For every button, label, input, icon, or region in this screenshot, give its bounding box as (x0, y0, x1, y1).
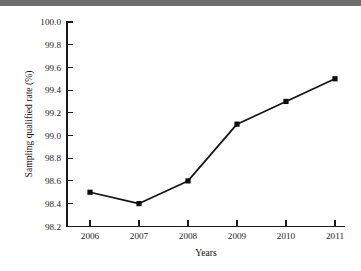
x-tick-label: 2006 (81, 231, 100, 241)
y-tick-label: 100.0 (40, 17, 61, 27)
data-line-series (90, 79, 335, 204)
y-axis-tick-labels: 100.0 99.8 99.6 99.4 99.2 99.0 98.8 98.6… (40, 17, 61, 231)
y-axis-ticks (67, 22, 73, 226)
data-point-marker (87, 190, 92, 195)
data-point-marker (136, 201, 141, 206)
y-tick-label: 98.2 (45, 222, 61, 232)
y-tick-label: 99.2 (45, 108, 61, 118)
x-tick-label: 2011 (326, 231, 344, 241)
x-axis-ticks (90, 220, 335, 226)
y-tick-label: 99.6 (45, 63, 61, 73)
x-axis-title: Years (195, 247, 217, 258)
data-point-marker (234, 122, 239, 127)
x-tick-label: 2009 (228, 231, 247, 241)
y-tick-label: 99.0 (45, 131, 61, 141)
y-axis-title: Sampling qualified rate (%) (23, 71, 35, 178)
x-tick-label: 2008 (179, 231, 198, 241)
y-tick-label: 99.8 (45, 40, 61, 50)
axis-spines (67, 21, 345, 226)
chart-svg: 100.0 99.8 99.6 99.4 99.2 99.0 98.8 98.6… (0, 6, 361, 271)
y-tick-label: 98.8 (45, 153, 61, 163)
x-tick-label: 2007 (130, 231, 149, 241)
y-tick-label: 98.6 (45, 176, 61, 186)
y-tick-label: 99.4 (45, 85, 61, 95)
data-point-marker (283, 99, 288, 104)
y-tick-label: 98.4 (45, 199, 61, 209)
x-tick-label: 2010 (277, 231, 296, 241)
line-chart: 100.0 99.8 99.6 99.4 99.2 99.0 98.8 98.6… (0, 6, 361, 271)
data-point-marker (185, 178, 190, 183)
x-axis-tick-labels: 2006 2007 2008 2009 2010 2011 (81, 231, 345, 241)
data-point-marker (332, 76, 337, 81)
chart-figure: 100.0 99.8 99.6 99.4 99.2 99.0 98.8 98.6… (0, 0, 361, 271)
